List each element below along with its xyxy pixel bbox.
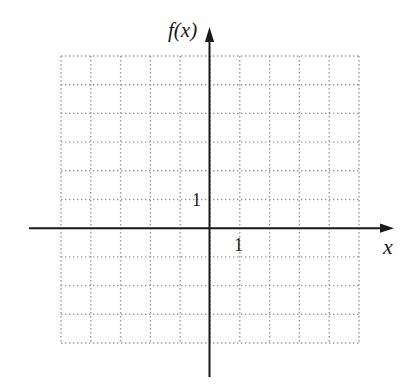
y-axis [205, 27, 214, 377]
coordinate-plane [0, 0, 413, 388]
x-axis [29, 224, 394, 233]
x-axis-label: x [383, 236, 393, 258]
y-axis-arrow-icon [205, 27, 214, 42]
y-axis-label: f(x) [168, 20, 197, 41]
x-unit-tick-label: 1 [234, 236, 243, 254]
x-axis-arrow-icon [380, 224, 394, 233]
y-unit-tick-label: 1 [192, 191, 201, 209]
